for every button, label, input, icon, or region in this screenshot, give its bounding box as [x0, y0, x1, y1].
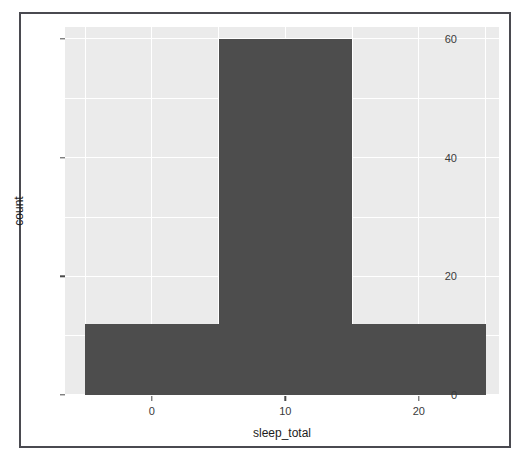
histogram-plot: 0204060 01020 sleep_total count — [21, 14, 509, 446]
y-tick-label: 20 — [445, 271, 457, 282]
plot-panel — [65, 27, 499, 395]
y-axis-title: count — [12, 196, 26, 225]
x-tick-mark — [418, 396, 419, 401]
y-tick-mark — [60, 394, 65, 395]
x-axis-title: sleep_total — [65, 426, 499, 440]
x-tick-label: 10 — [279, 406, 291, 417]
x-tick-mark — [151, 396, 152, 401]
x-tick-label: 20 — [413, 406, 425, 417]
y-tick-label: 0 — [451, 390, 457, 401]
histogram-bar — [352, 324, 486, 395]
histogram-bar — [219, 39, 353, 395]
y-tick-mark — [60, 276, 65, 277]
y-tick-label: 40 — [445, 152, 457, 163]
y-tick-label: 60 — [445, 33, 457, 44]
y-tick-mark — [60, 157, 65, 158]
plot-device-frame: 0204060 01020 sleep_total count — [19, 12, 511, 448]
histogram-bar — [85, 324, 219, 395]
y-tick-mark — [60, 38, 65, 39]
x-tick-label: 0 — [149, 406, 155, 417]
x-tick-mark — [285, 396, 286, 401]
